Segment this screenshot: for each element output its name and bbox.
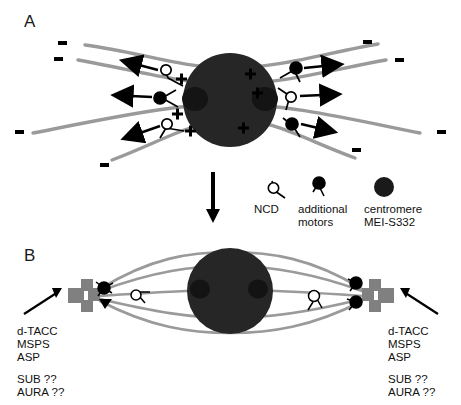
legend-centromere-icon	[374, 177, 394, 197]
legend-additional-motors-label-line2: motors	[298, 216, 333, 230]
right-pole-label-msps: MSPS	[388, 338, 421, 352]
panel-a-motor-left-2	[154, 90, 178, 107]
right-pole-label-sub: SUB ??	[388, 373, 428, 387]
legend-ncd-label: NCD	[254, 203, 279, 217]
legend-additional-motors-icon	[313, 177, 325, 196]
transition-down-arrow	[206, 172, 220, 223]
right-pole-label-asp: ASP	[388, 351, 411, 365]
panel-b-left-pointer-arrow	[24, 288, 62, 314]
panel-b-right-pole-body	[362, 279, 394, 312]
left-pole-label-d-tacc: d-TACC	[17, 325, 58, 339]
panel-b-left-ncd-motor	[131, 290, 150, 303]
panel-a-motor-left-1	[161, 65, 183, 86]
left-pole-label-msps: MSPS	[17, 338, 50, 352]
panel-b-label: B	[24, 246, 35, 266]
right-pole-label-d-tacc: d-TACC	[388, 325, 429, 339]
right-pole-label-aura: AURA ??	[388, 386, 435, 400]
legend-centromere-label-line2: MEI-S332	[364, 216, 415, 230]
legend-centromere-label-line1: centromere	[364, 203, 422, 217]
panel-b-chromatin	[187, 248, 273, 334]
left-pole-label-asp: ASP	[17, 351, 40, 365]
panel-b-left-pole-body	[68, 279, 100, 312]
figure-canvas: A B NCD additional motors centromere MEI…	[0, 0, 461, 405]
panel-a-label: A	[24, 12, 35, 32]
panel-b-right-pointer-arrow	[400, 288, 438, 314]
legend-ncd-icon	[268, 181, 285, 198]
left-pole-label-sub: SUB ??	[17, 373, 57, 387]
left-pole-label-aura: AURA ??	[17, 386, 64, 400]
legend-additional-motors-label-line1: additional	[298, 203, 347, 217]
